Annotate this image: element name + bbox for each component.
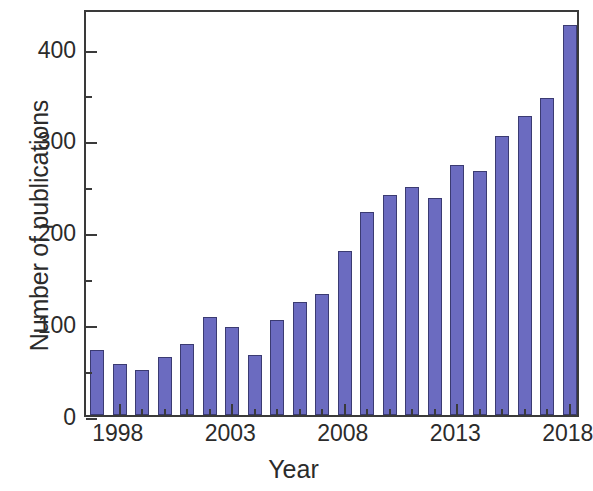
x-tick-major — [456, 404, 458, 415]
x-tick-minor — [209, 409, 211, 415]
bar — [225, 327, 239, 415]
bar — [315, 294, 329, 415]
x-tick-minor — [389, 409, 391, 415]
x-tick-label: 2013 — [430, 420, 481, 447]
y-tick-major — [86, 51, 97, 53]
bar — [428, 198, 442, 415]
x-tick-minor — [299, 409, 301, 415]
y-tick-minor — [86, 280, 92, 282]
bar — [248, 355, 262, 415]
y-tick-label: 400 — [38, 36, 76, 63]
y-tick-label: 200 — [38, 220, 76, 247]
bar — [360, 212, 374, 415]
bar — [495, 136, 509, 415]
bar-series — [86, 12, 577, 415]
bar — [270, 320, 284, 415]
x-tick-label: 1998 — [92, 420, 143, 447]
bar — [383, 195, 397, 415]
x-tick-minor — [411, 409, 413, 415]
bar — [338, 251, 352, 415]
y-tick-minor — [86, 188, 92, 190]
x-tick-minor — [501, 409, 503, 415]
x-tick-minor — [434, 409, 436, 415]
x-tick-minor — [186, 409, 188, 415]
bar — [90, 350, 104, 415]
y-tick-label: 100 — [38, 312, 76, 339]
x-tick-minor — [546, 409, 548, 415]
x-tick-minor — [479, 409, 481, 415]
bar — [450, 165, 464, 415]
y-tick-major — [86, 326, 97, 328]
x-tick-minor — [141, 409, 143, 415]
x-tick-minor — [366, 409, 368, 415]
x-tick-minor — [276, 409, 278, 415]
bar — [405, 187, 419, 415]
bar — [180, 344, 194, 415]
x-tick-label: 2018 — [542, 420, 593, 447]
y-tick-label: 300 — [38, 128, 76, 155]
bar — [203, 317, 217, 415]
bar — [563, 25, 577, 415]
x-axis-title: Year — [0, 455, 587, 484]
x-tick-minor — [524, 409, 526, 415]
bar — [158, 357, 172, 415]
y-tick-minor — [86, 96, 92, 98]
bar — [293, 302, 307, 415]
y-tick-label: 0 — [63, 404, 76, 431]
x-tick-major — [569, 404, 571, 415]
x-tick-major — [119, 404, 121, 415]
x-tick-label: 2003 — [205, 420, 256, 447]
x-tick-major — [231, 404, 233, 415]
bar — [540, 98, 554, 415]
bar — [473, 171, 487, 415]
x-tick-minor — [164, 409, 166, 415]
y-tick-major — [86, 234, 97, 236]
x-tick-minor — [254, 409, 256, 415]
plot-area — [84, 10, 579, 417]
y-tick-major — [86, 142, 97, 144]
bar — [518, 116, 532, 415]
x-tick-major — [344, 404, 346, 415]
y-tick-minor — [86, 372, 92, 374]
x-tick-minor — [321, 409, 323, 415]
x-tick-label: 2008 — [317, 420, 368, 447]
